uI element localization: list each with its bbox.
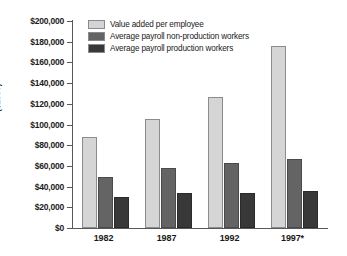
bar-chart: ($1997) $0$20,000$40,000$60,000$80,000$1… <box>0 0 347 256</box>
y-axis-tick-label: $60,000 <box>0 161 64 171</box>
y-axis-tick-label: $120,000 <box>0 99 64 109</box>
y-axis-tick-label: $200,000 <box>0 16 64 26</box>
bar <box>224 163 240 228</box>
y-axis-tick-label: $80,000 <box>0 140 64 150</box>
legend-label: Average payroll non-production workers <box>110 32 249 41</box>
bar <box>287 159 303 228</box>
legend-swatch-icon <box>88 44 105 53</box>
y-axis-tick-label: $140,000 <box>0 78 64 88</box>
legend-swatch-icon <box>88 32 105 41</box>
bar <box>303 191 319 228</box>
bar <box>98 177 114 228</box>
legend-item: Average payroll production workers <box>88 43 249 53</box>
x-axis-tick-label: 1982 <box>72 233 135 243</box>
legend-label: Value added per employee <box>110 20 204 29</box>
bar-group <box>271 21 319 228</box>
x-axis-tick-label: 1997* <box>261 233 324 243</box>
bar <box>114 197 130 228</box>
bar <box>161 168 177 228</box>
legend-label: Average payroll production workers <box>110 44 233 53</box>
bar <box>208 97 224 228</box>
y-axis-tick-label: $20,000 <box>0 202 64 212</box>
x-axis-line <box>72 228 328 229</box>
y-axis-tick-label: $0 <box>0 223 64 233</box>
bar <box>82 137 98 228</box>
x-axis-tick-label: 1987 <box>135 233 198 243</box>
bar <box>271 46 287 228</box>
y-axis-tick <box>67 228 72 229</box>
legend-item: Average payroll non-production workers <box>88 31 249 41</box>
bar <box>177 193 193 228</box>
chart-legend: Value added per employeeAverage payroll … <box>88 19 249 53</box>
legend-item: Value added per employee <box>88 19 249 29</box>
y-axis-tick-label: $40,000 <box>0 182 64 192</box>
x-axis-tick-label: 1992 <box>198 233 261 243</box>
legend-swatch-icon <box>88 20 105 29</box>
y-axis-tick-label: $180,000 <box>0 37 64 47</box>
y-axis-tick-label: $160,000 <box>0 57 64 67</box>
y-axis-tick-label: $100,000 <box>0 120 64 130</box>
bar <box>145 119 161 228</box>
bar <box>240 193 256 228</box>
